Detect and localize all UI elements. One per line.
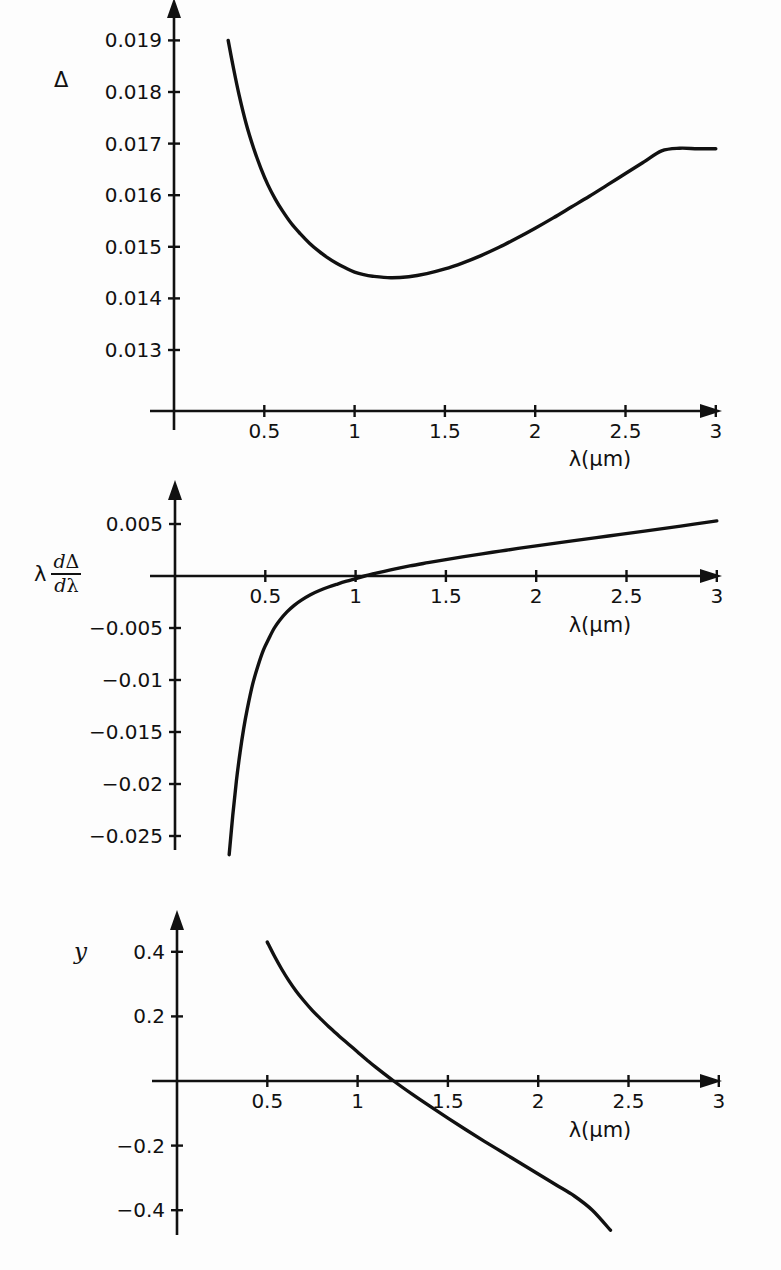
x-tick-label: 3 bbox=[710, 584, 723, 608]
data-curve bbox=[229, 521, 717, 855]
y-tick-label: 0.016 bbox=[105, 183, 162, 207]
x-tick-label: 0.5 bbox=[248, 419, 280, 443]
y-tick-label: 0.014 bbox=[105, 286, 162, 310]
y-axis-arrow-icon bbox=[167, 0, 181, 18]
figure-root: 0.511.522.530.0190.0180.0170.0160.0150.0… bbox=[0, 0, 781, 1270]
x-tick-label: 3 bbox=[712, 1089, 725, 1113]
y-tick-label: 0.015 bbox=[105, 235, 162, 259]
x-axis-title: λ(μm) bbox=[569, 1118, 632, 1142]
panel-derivative-ylabel-lambda: λ bbox=[34, 562, 46, 586]
plot-panel-lambda-ddelta-dlambda: 0.511.522.530.005−0.005−0.01−0.015−0.02−… bbox=[0, 480, 781, 880]
y-tick-label: −0.025 bbox=[89, 824, 163, 848]
panel-y-ylabel: y bbox=[74, 938, 87, 964]
y-tick-label: −0.005 bbox=[89, 616, 163, 640]
plot-panel-delta: 0.511.522.530.0190.0180.0170.0160.0150.0… bbox=[0, 0, 781, 470]
panel-delta-ylabel: Δ bbox=[54, 68, 68, 92]
panel-derivative-ylabel-fraction: dΔ dλ bbox=[51, 552, 81, 596]
x-axis-arrow-icon bbox=[700, 569, 722, 583]
x-tick-label: 1 bbox=[351, 1089, 364, 1113]
x-tick-label: 1.5 bbox=[430, 584, 462, 608]
y-tick-label: 0.4 bbox=[133, 940, 165, 964]
y-axis-arrow-icon bbox=[168, 480, 182, 500]
y-tick-label: 0.019 bbox=[105, 28, 162, 52]
x-axis-arrow-icon bbox=[700, 404, 722, 418]
y-tick-label: 0.005 bbox=[106, 512, 163, 536]
y-tick-label: −0.4 bbox=[116, 1198, 165, 1222]
y-tick-label: −0.01 bbox=[102, 668, 163, 692]
plot-panel-y: 0.511.522.530.40.2−0.2−0.4λ(μm) bbox=[0, 890, 781, 1270]
y-tick-label: −0.2 bbox=[116, 1134, 165, 1158]
y-tick-label: −0.02 bbox=[102, 772, 163, 796]
x-tick-label: 2.5 bbox=[613, 1089, 645, 1113]
x-tick-label: 2 bbox=[532, 1089, 545, 1113]
x-axis-title: λ(μm) bbox=[569, 613, 632, 637]
y-tick-label: 0.018 bbox=[105, 80, 162, 104]
x-tick-label: 3 bbox=[709, 419, 722, 443]
x-tick-label: 1 bbox=[348, 419, 361, 443]
fraction-numerator: dΔ bbox=[51, 552, 81, 573]
data-curve bbox=[267, 942, 610, 1230]
data-curve bbox=[228, 40, 716, 277]
fraction-denominator: dλ bbox=[52, 575, 80, 596]
x-axis-title: λ(μm) bbox=[569, 447, 632, 470]
x-tick-label: 1.5 bbox=[429, 419, 461, 443]
y-tick-label: 0.017 bbox=[105, 132, 162, 156]
x-tick-label: 2.5 bbox=[611, 584, 643, 608]
x-tick-label: 2 bbox=[529, 419, 542, 443]
y-tick-label: 0.2 bbox=[133, 1004, 165, 1028]
x-tick-label: 0.5 bbox=[251, 1089, 283, 1113]
y-axis-arrow-icon bbox=[170, 910, 184, 930]
panel-derivative-ylabel: λ dΔ dλ bbox=[34, 552, 81, 596]
x-tick-label: 2.5 bbox=[610, 419, 642, 443]
y-tick-label: 0.013 bbox=[105, 338, 162, 362]
x-tick-label: 1 bbox=[349, 584, 362, 608]
y-tick-label: −0.015 bbox=[89, 720, 163, 744]
x-tick-label: 2 bbox=[530, 584, 543, 608]
x-tick-label: 0.5 bbox=[249, 584, 281, 608]
